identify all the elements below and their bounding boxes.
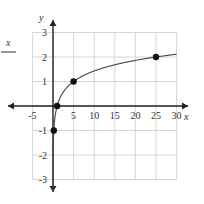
x-axis-left-arrow-icon	[8, 103, 14, 110]
data-point	[70, 78, 76, 84]
y-tick-label: -3	[39, 174, 47, 185]
x-axis-right-arrow-icon	[182, 103, 188, 110]
x-tick-label: 5	[71, 110, 76, 121]
data-point	[153, 54, 159, 60]
x-tick-label: 30	[172, 110, 182, 121]
x-tick-label: -5	[28, 110, 36, 121]
y-tick-label: 3	[42, 27, 47, 38]
x-tick-label: 20	[130, 110, 140, 121]
y-axis-label: y	[38, 12, 44, 23]
data-point	[51, 127, 57, 133]
x-axis-label: x	[183, 111, 189, 122]
log-chart: -551015202530321-1-2-3xyx	[0, 0, 204, 204]
y-tick-label: -2	[39, 150, 47, 161]
y-tick-label: 1	[42, 76, 47, 87]
y-axis-up-arrow-icon	[50, 20, 57, 26]
x-tick-label: 25	[151, 110, 161, 121]
fragment-x-label: x	[5, 37, 11, 48]
data-point	[54, 103, 60, 109]
y-tick-label: 2	[42, 52, 47, 63]
y-tick-label: -1	[39, 125, 47, 136]
x-tick-label: 10	[89, 110, 99, 121]
x-tick-label: 15	[110, 110, 120, 121]
